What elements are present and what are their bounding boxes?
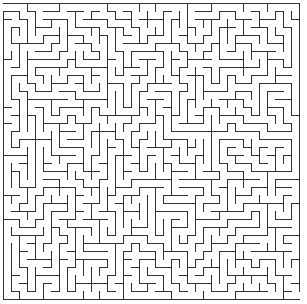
maze-background	[0, 0, 307, 304]
maze-canvas	[0, 0, 307, 304]
maze	[0, 0, 307, 304]
